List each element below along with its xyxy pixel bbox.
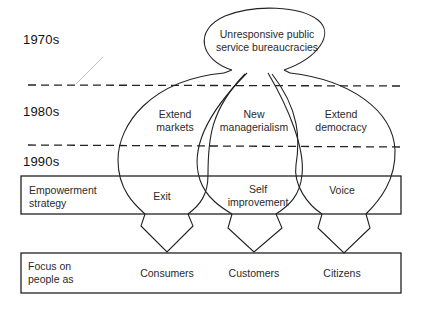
- strategy-self-line1: Self: [222, 183, 294, 196]
- strategy-self-improvement: Self improvement: [222, 183, 294, 208]
- strategy-voice-text: Voice: [320, 184, 364, 197]
- branch-managerialism-line1: New: [218, 108, 290, 121]
- branch-managerialism-line2: managerialism: [218, 121, 290, 134]
- branch-markets-line1: Extend: [145, 108, 205, 121]
- focus-consumers: Consumers: [135, 267, 199, 280]
- branch-democracy-line2: democracy: [311, 121, 371, 134]
- branch-label-managerialism: New managerialism: [218, 108, 290, 133]
- diamond-connector-exit: [141, 214, 193, 252]
- strategy-self-line2: improvement: [222, 196, 294, 209]
- focus-row-label: Focus on people as: [28, 260, 74, 286]
- branch-label-democracy: Extend democracy: [311, 108, 371, 133]
- focus-citizens: Citizens: [310, 267, 374, 280]
- strategy-voice: Voice: [320, 184, 364, 197]
- divider-1980-1990: [28, 145, 400, 147]
- focus-customers: Customers: [222, 267, 286, 280]
- empowerment-label-line2: strategy: [29, 197, 97, 210]
- branch-markets-line2: markets: [145, 121, 205, 134]
- pencil-mark: [76, 57, 103, 84]
- era-label-1980s: 1980s: [23, 104, 59, 119]
- top-bubble-text: Unresponsive public service bureaucracie…: [211, 28, 323, 53]
- divider-1970-1980: [28, 85, 400, 86]
- diamond-connector-voice: [318, 214, 370, 253]
- top-bubble-line2: service bureaucracies: [211, 41, 323, 54]
- empowerment-row-label: Empowerment strategy: [29, 184, 97, 210]
- strategy-exit-text: Exit: [140, 190, 184, 203]
- empowerment-label-line1: Empowerment: [29, 184, 97, 197]
- focus-label-line2: people as: [28, 273, 74, 286]
- era-label-1990s: 1990s: [23, 154, 59, 169]
- branch-democracy-line1: Extend: [311, 108, 371, 121]
- top-bubble-line1: Unresponsive public: [211, 28, 323, 41]
- branch-label-markets: Extend markets: [145, 108, 205, 133]
- focus-label-line1: Focus on: [28, 260, 74, 273]
- era-label-1970s: 1970s: [23, 32, 59, 47]
- diamond-connector-self-improvement: [228, 214, 282, 252]
- strategy-exit: Exit: [140, 190, 184, 203]
